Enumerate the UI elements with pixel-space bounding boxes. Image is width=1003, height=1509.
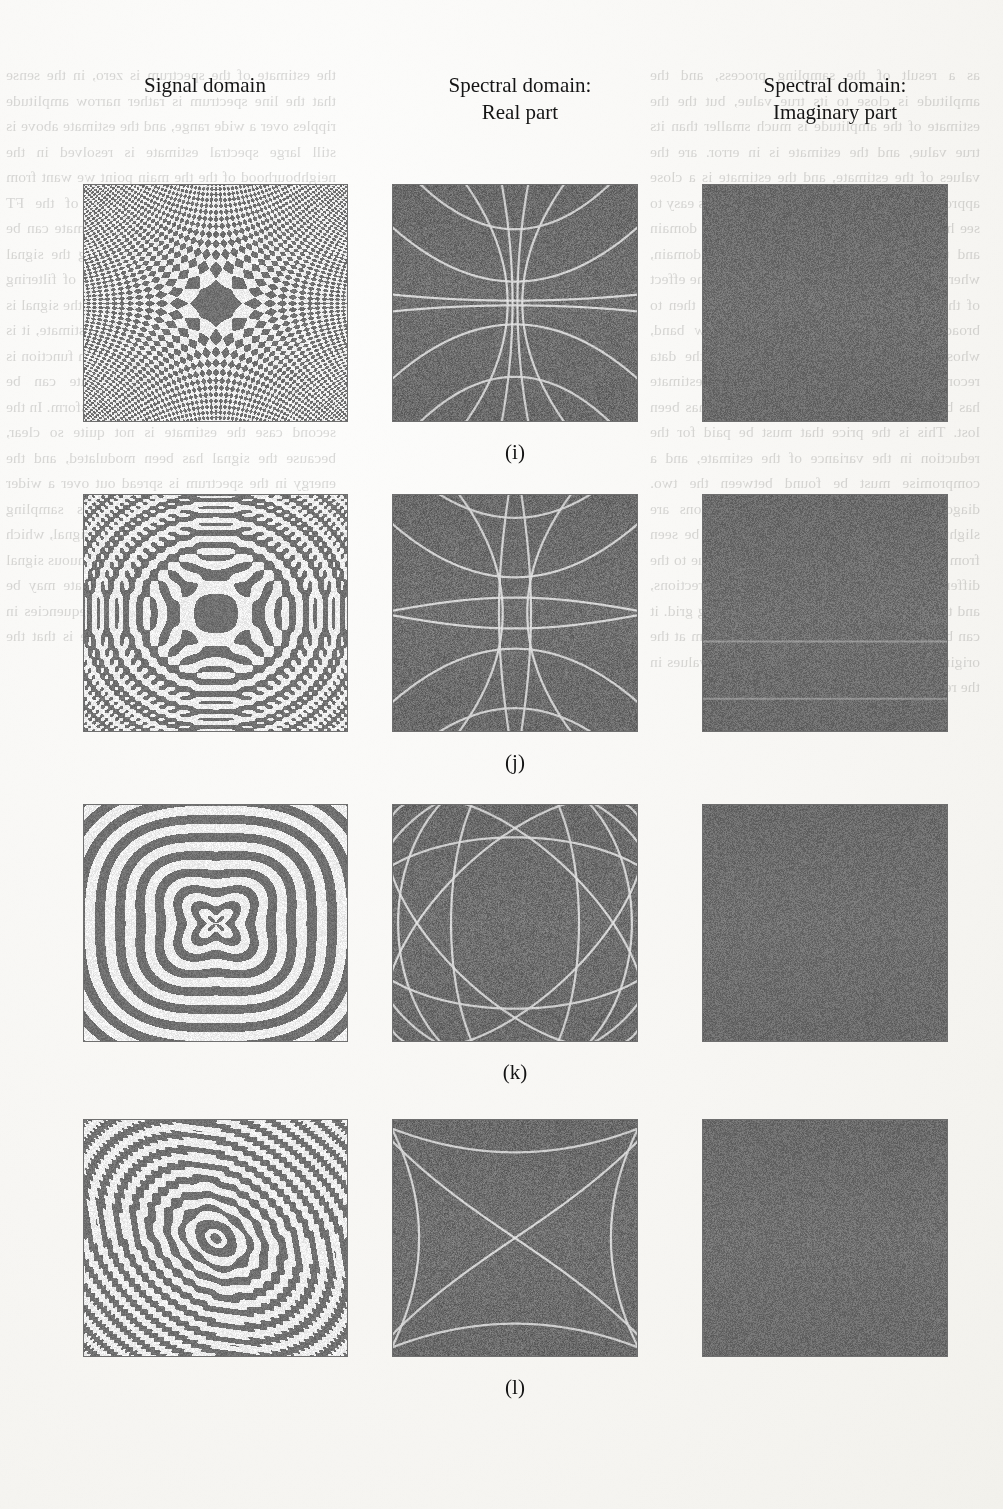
column-header-signal-domain: Signal domain <box>50 72 360 99</box>
row-label-j: (j) <box>485 750 545 775</box>
plot-image-l-real <box>392 1119 638 1357</box>
column-header-spectral-imaginary-line1: Spectral domain: <box>680 72 990 99</box>
plot-panel-k-imaginary: 4.0-4.-4.04. <box>702 804 948 1042</box>
plot-panel-j-signal: 8.0-8.-8.08. <box>83 494 348 732</box>
column-header-spectral-real-line1: Spectral domain: <box>370 72 670 99</box>
plot-image-i-signal <box>83 184 348 422</box>
column-header-spectral-imaginary: Spectral domain: Imaginary part <box>680 72 990 126</box>
plot-image-i-real <box>392 184 638 422</box>
plot-panel-i-signal: 8.0-8.-8.08. <box>83 184 348 422</box>
row-label-k: (k) <box>485 1060 545 1085</box>
plot-panel-j-real: 4.0-4.-4.04. <box>392 494 638 732</box>
plot-image-l-imaginary <box>702 1119 948 1357</box>
column-header-signal-domain-line1: Signal domain <box>50 72 360 99</box>
plot-panel-j-imaginary: 4.0-4.-4.04. <box>702 494 948 732</box>
plot-image-k-imaginary <box>702 804 948 1042</box>
plot-image-l-signal <box>83 1119 348 1357</box>
plot-panel-l-real: 4.0-4.-4.04. <box>392 1119 638 1357</box>
column-header-spectral-real: Spectral domain: Real part <box>370 72 670 126</box>
plot-panel-l-signal: 8.0-8.-8.08. <box>83 1119 348 1357</box>
plot-image-j-imaginary <box>702 494 948 732</box>
plot-image-k-real <box>392 804 638 1042</box>
plot-panel-l-imaginary: 4.0-4.-4.04. <box>702 1119 948 1357</box>
plot-image-j-real <box>392 494 638 732</box>
row-label-l: (l) <box>485 1375 545 1400</box>
plot-image-i-imaginary <box>702 184 948 422</box>
plot-panel-k-signal: 8.0-8.-8.08. <box>83 804 348 1042</box>
plot-panel-k-real: 4.0-4.-4.04. <box>392 804 638 1042</box>
plot-panel-i-real: 4.0-4.-4.04. <box>392 184 638 422</box>
plot-panel-i-imaginary: 4.0-4.-4.04. <box>702 184 948 422</box>
column-header-spectral-imaginary-line2: Imaginary part <box>680 99 990 126</box>
column-header-spectral-real-line2: Real part <box>370 99 670 126</box>
plot-image-j-signal <box>83 494 348 732</box>
plot-image-k-signal <box>83 804 348 1042</box>
row-label-i: (i) <box>485 440 545 465</box>
